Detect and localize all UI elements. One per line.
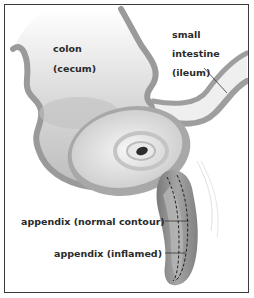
- label-colon-cecum: colon (cecum): [53, 39, 96, 79]
- label-cecum: (cecum): [53, 59, 96, 79]
- label-appendix-normal: appendix (normal contour): [21, 215, 165, 229]
- label-intestine: intestine: [172, 44, 220, 63]
- label-appendix-inflamed: appendix (inflamed): [54, 247, 162, 261]
- label-small-intestine: small intestine (ileum): [172, 25, 220, 82]
- diagram-frame: colon (cecum) small intestine (ileum) ap…: [4, 4, 249, 293]
- label-ileum: (ileum): [172, 63, 220, 82]
- label-small: small: [172, 25, 220, 44]
- appendix-shape: [157, 161, 218, 285]
- label-colon: colon: [53, 39, 96, 59]
